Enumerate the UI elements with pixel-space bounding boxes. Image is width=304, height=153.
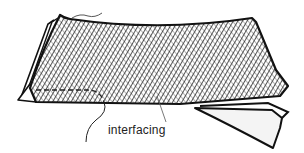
thread-loose [86, 102, 105, 142]
label-interfacing: interfacing [108, 123, 166, 137]
sewing-diagram: interfacing [0, 0, 304, 153]
thread-top [72, 13, 102, 18]
underlayer-flap [195, 103, 288, 148]
